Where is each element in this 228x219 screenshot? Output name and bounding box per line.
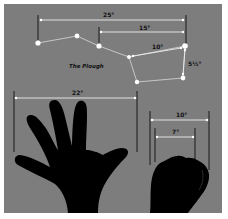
measure-5-5-degrees: 5½° [182,49,202,75]
star-icon [35,40,40,45]
star-icon [96,43,101,48]
label-5-5-degrees: 5½° [188,60,201,67]
fist-silhouette [150,156,209,213]
star-icon [135,80,139,84]
star-icon [181,76,186,81]
plough-hand-measure-diagram: 25° 15° 10° 5½° The Plough [0,0,228,219]
label-15-degrees: 15° [139,24,150,31]
measure-15-degrees: 15° [99,24,184,43]
star-icon [127,55,131,59]
label-7-degrees-fist: 7° [172,128,179,135]
stars [35,34,187,85]
label-10-degrees-fist: 10° [176,111,187,118]
label-25-degrees: 25° [103,11,114,18]
label-22-degrees: 22° [72,89,83,96]
star-icon [182,43,188,49]
measure-10-degrees-bowl: 10° [132,43,182,57]
label-10-degrees-bowl: 10° [152,43,163,50]
star-icon [75,34,80,39]
constellation-title: The Plough [69,63,104,70]
open-hand-silhouette [15,100,128,213]
